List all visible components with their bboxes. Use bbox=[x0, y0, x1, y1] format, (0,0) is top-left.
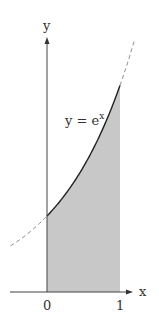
curve-label-base: y = e bbox=[64, 113, 100, 128]
y-axis-label: y bbox=[42, 18, 51, 33]
y-axis-arrow-icon bbox=[45, 37, 50, 44]
exp-area-diagram: y x 0 1 y = ex bbox=[0, 0, 159, 325]
dashed-curve-right bbox=[120, 40, 135, 86]
x-tick-0: 0 bbox=[43, 298, 51, 313]
x-axis-label: x bbox=[139, 284, 147, 299]
dashed-curve-left bbox=[11, 216, 48, 246]
x-tick-1: 1 bbox=[116, 298, 124, 313]
curve-label: y = ex bbox=[64, 111, 104, 128]
curve-label-exponent: x bbox=[99, 111, 104, 121]
x-axis-arrow-icon bbox=[126, 290, 133, 295]
